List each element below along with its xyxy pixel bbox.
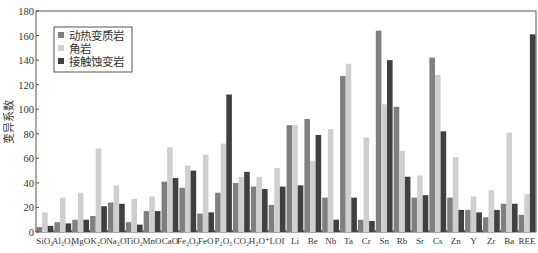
y-tick-label: 60 bbox=[24, 153, 35, 164]
bar bbox=[476, 212, 482, 232]
bar bbox=[280, 187, 286, 232]
bar bbox=[256, 177, 262, 232]
bar bbox=[381, 104, 387, 232]
bar bbox=[203, 155, 209, 232]
bar bbox=[162, 182, 168, 232]
x-tick-label: Y bbox=[470, 236, 477, 246]
bar bbox=[441, 131, 447, 232]
legend-swatch bbox=[58, 58, 64, 64]
bar bbox=[185, 166, 191, 232]
x-tick-label: FeO bbox=[198, 236, 214, 246]
x-tick-label: Cr bbox=[362, 236, 371, 246]
bar bbox=[244, 172, 250, 232]
bar bbox=[119, 204, 125, 232]
bar bbox=[364, 137, 370, 232]
legend: 动热变质岩角岩接触蚀变岩 bbox=[54, 27, 132, 72]
bar bbox=[376, 31, 382, 232]
x-tick-label: Nb bbox=[325, 236, 336, 246]
x-tick-label: Ba bbox=[504, 236, 514, 246]
bar bbox=[512, 204, 518, 232]
bar bbox=[149, 196, 155, 232]
bar bbox=[310, 161, 316, 232]
bar bbox=[316, 135, 322, 232]
bar bbox=[167, 147, 173, 232]
bar bbox=[351, 198, 357, 232]
x-tick-label: Zr bbox=[487, 236, 496, 246]
bar bbox=[269, 205, 275, 232]
bar bbox=[226, 94, 232, 232]
bar bbox=[137, 225, 143, 232]
x-tick-label: Zn bbox=[451, 236, 461, 246]
bar-chart: 020406080100120140160180SiO₂Al₂O₃MgOK₂ON… bbox=[0, 0, 538, 253]
y-tick-label: 100 bbox=[18, 104, 34, 115]
x-tick-label: CO₂ bbox=[234, 236, 250, 246]
bar bbox=[322, 198, 328, 232]
legend-swatch bbox=[58, 45, 64, 51]
bar bbox=[465, 210, 471, 232]
bar bbox=[90, 216, 96, 232]
bar bbox=[304, 119, 310, 232]
bar bbox=[78, 193, 84, 232]
bar bbox=[54, 222, 60, 232]
bar bbox=[399, 151, 405, 232]
bar bbox=[494, 210, 500, 232]
x-tick-label: MnO bbox=[143, 236, 163, 246]
x-tick-label: Cs bbox=[433, 236, 443, 246]
y-tick-label: 80 bbox=[24, 129, 35, 140]
bar bbox=[346, 64, 352, 232]
bar bbox=[144, 211, 150, 232]
bar bbox=[42, 212, 48, 232]
x-tick-label: LOI bbox=[270, 236, 285, 246]
bar bbox=[66, 223, 72, 232]
bar bbox=[453, 157, 459, 232]
x-tick-label: H₂O⁺ bbox=[249, 236, 270, 246]
legend-swatch bbox=[58, 32, 64, 38]
bar bbox=[447, 198, 453, 232]
bar bbox=[72, 220, 78, 232]
bar bbox=[483, 217, 489, 232]
y-tick-label: 180 bbox=[18, 6, 34, 17]
x-tick-label: REE bbox=[519, 236, 537, 246]
bar bbox=[298, 185, 304, 232]
bar bbox=[423, 195, 429, 232]
legend-label: 接触蚀变岩 bbox=[69, 55, 124, 69]
bar bbox=[340, 76, 346, 232]
bar bbox=[131, 199, 137, 232]
bar bbox=[179, 188, 185, 232]
y-axis-label: 变异系数 bbox=[2, 100, 16, 144]
y-tick-label: 160 bbox=[18, 31, 34, 42]
bar bbox=[524, 194, 530, 232]
legend-label: 角岩 bbox=[69, 42, 91, 56]
bar bbox=[233, 183, 239, 232]
bar bbox=[358, 220, 364, 232]
bar bbox=[471, 196, 477, 232]
x-tick-label: Be bbox=[308, 236, 318, 246]
bar bbox=[274, 168, 280, 232]
y-tick-label: 140 bbox=[18, 55, 34, 66]
bar bbox=[221, 144, 227, 232]
bar bbox=[251, 187, 257, 232]
bar bbox=[501, 204, 507, 232]
bar bbox=[60, 198, 66, 232]
bar bbox=[83, 220, 89, 232]
bar bbox=[287, 125, 293, 232]
x-tick-label: Fe₂O₃ bbox=[177, 236, 199, 246]
bar bbox=[48, 226, 54, 232]
bar bbox=[387, 60, 393, 232]
bar bbox=[96, 149, 102, 232]
x-tick-label: Rb bbox=[397, 236, 408, 246]
x-tick-label: MgO bbox=[71, 236, 91, 246]
bar bbox=[429, 58, 435, 232]
bar bbox=[215, 193, 221, 232]
bar bbox=[262, 189, 268, 232]
bar bbox=[191, 171, 197, 232]
bar bbox=[328, 129, 334, 232]
bar bbox=[405, 177, 411, 232]
legend-label: 动热变质岩 bbox=[69, 29, 124, 43]
bar bbox=[506, 133, 512, 232]
bar bbox=[417, 176, 423, 232]
bar bbox=[126, 222, 132, 232]
x-tick-label: Na₂O bbox=[106, 236, 127, 246]
x-tick-label: K₂O bbox=[90, 236, 107, 246]
x-tick-label: P₂O₅ bbox=[215, 236, 233, 246]
